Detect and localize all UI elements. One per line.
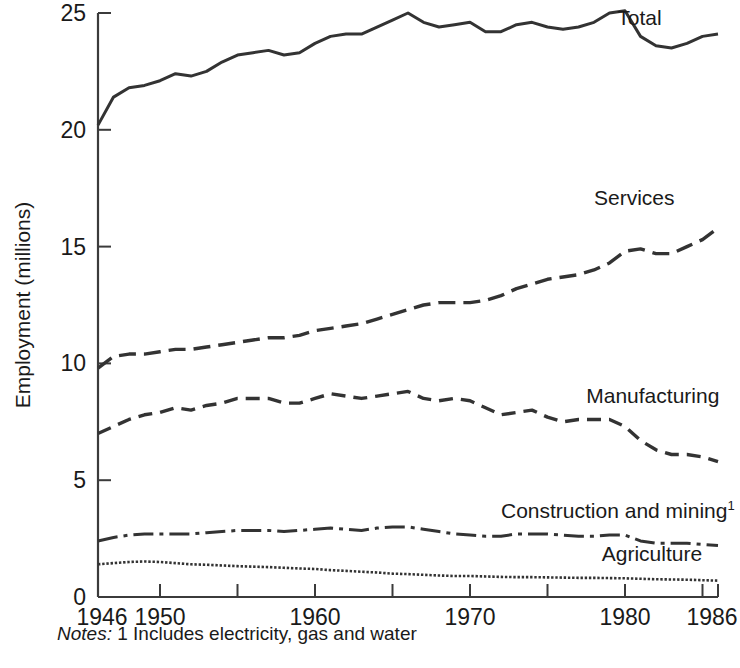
y-axis-tick-labels: 0510152025 [60,0,86,610]
series-label-total: Total [617,6,661,29]
y-tick-label: 5 [73,467,86,493]
data-series-group [98,11,718,581]
y-tick-label: 20 [60,117,86,143]
y-tick-label: 25 [60,0,86,26]
series-label-construction-and-mining: Construction and mining1 [501,498,735,522]
x-axis-ticks [160,584,718,597]
notes-prefix: Notes: [57,623,112,644]
notes-text: Includes electricity, gas and water [133,623,417,644]
y-axis-ticks [98,13,111,597]
x-tick-label: 1980 [599,604,650,630]
series-label-agriculture: Agriculture [602,542,702,565]
y-axis-title: Employment (millions) [11,202,34,409]
series-line-services [98,228,718,368]
y-tick-label: 10 [60,350,86,376]
x-tick-label: 1970 [444,604,495,630]
employment-line-chart: 0510152025 194619501960197019801986 Empl… [0,0,740,668]
notes-marker: 1 [117,623,128,644]
chart-canvas: 0510152025 194619501960197019801986 Empl… [0,0,740,668]
x-tick-label: 1986 [686,604,737,630]
y-tick-label: 15 [60,234,86,260]
series-label-manufacturing: Manufacturing [586,384,719,407]
chart-notes: Notes: 1 Includes electricity, gas and w… [57,623,417,645]
series-label-group: TotalServicesManufacturingConstruction a… [501,6,735,565]
series-label-services: Services [594,186,675,209]
